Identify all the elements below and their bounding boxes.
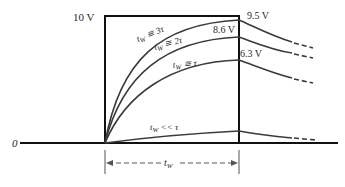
final-value-9-5v: 9.5 V [247, 10, 270, 21]
svg-text:tW << τ: tW << τ [150, 122, 179, 134]
condition-label-tw-ll-tau: tW << τ [150, 122, 179, 134]
baseline-label: 0 [12, 137, 18, 149]
discharge-dash-tw-3tau [294, 43, 313, 48]
curve-tw-ll-tau [105, 131, 239, 143]
amplitude-label: 10 V [73, 11, 95, 23]
pulse-response-diagram: 10 V 0 9.5 V 8.6 V 6.3 V tW ≅ 3τ tW ≅ 2τ… [0, 0, 345, 187]
pulse-width-label: tW [164, 157, 174, 170]
discharge-tw-tau [239, 60, 292, 78]
discharge-tw-3tau [239, 20, 292, 42]
discharge-dash-tw-2tau [294, 54, 313, 58]
discharge-dash-tw-ll-tau [294, 138, 316, 140]
arrowhead-right-icon [231, 160, 238, 166]
condition-label-tw-2tau: tW ≅ 2τ [153, 35, 184, 54]
svg-text:tW ≅ 2τ: tW ≅ 2τ [153, 35, 184, 54]
discharge-dash-tw-tau [294, 79, 313, 83]
final-value-8-6v: 8.6 V [213, 24, 236, 35]
final-value-6-3v: 6.3 V [240, 48, 263, 59]
arrowhead-left-icon [106, 160, 113, 166]
discharge-tw-ll-tau [239, 131, 292, 138]
